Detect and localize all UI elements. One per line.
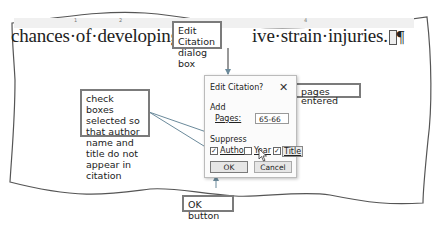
edit-citation-dialog: Edit Citation ? ✕ Add Pages: 65-66 Suppr… xyxy=(204,75,297,178)
callout-pages-entered: pages entered xyxy=(295,83,361,98)
pages-input[interactable]: 65-66 xyxy=(255,113,289,124)
document-text-right: ive·strain·injuries.¶ xyxy=(252,25,404,47)
author-checkbox[interactable]: ✓ xyxy=(210,147,218,155)
ruler-number: 4 xyxy=(304,17,307,23)
suppress-section-label: Suppress xyxy=(210,135,247,144)
document-text: ive·strain·injuries. xyxy=(252,25,388,46)
ruler-number: 1 xyxy=(74,17,77,23)
paragraph-mark: ¶ xyxy=(397,27,405,46)
ruler-number: 2 xyxy=(119,17,122,23)
year-checkbox[interactable] xyxy=(244,147,252,155)
callout-check-boxes: check boxes selected so that author name… xyxy=(80,89,150,137)
author-checkbox-label[interactable]: Author xyxy=(220,146,247,155)
ok-button[interactable]: OK xyxy=(210,161,248,173)
add-section-label: Add xyxy=(210,103,226,112)
citation-placeholder[interactable] xyxy=(389,30,397,45)
callout-dialog-box: Edit Citation dialog box xyxy=(172,21,222,49)
dialog-title: Edit Citation xyxy=(210,83,259,92)
pages-label: Pages: xyxy=(215,114,241,123)
cancel-button[interactable]: Cancel xyxy=(254,161,292,173)
help-button[interactable]: ? xyxy=(259,83,263,92)
callout-ok-button: OK button xyxy=(182,195,234,212)
close-icon[interactable]: ✕ xyxy=(279,81,288,94)
title-checkbox[interactable]: ✓ xyxy=(273,147,281,155)
title-checkbox-label[interactable]: Title xyxy=(282,146,303,157)
mouse-pointer-icon xyxy=(258,148,268,162)
